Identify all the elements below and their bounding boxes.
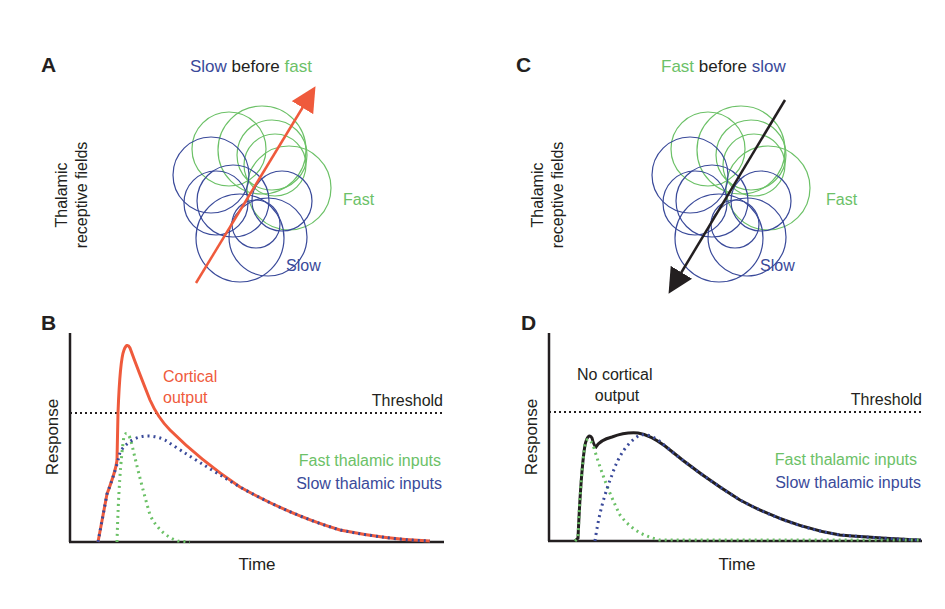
svg-text:Response: Response [522,399,541,476]
panel-a-title: Slow before fast [190,57,312,76]
x-axis-label: Time [718,555,755,574]
legend-fast: Fast thalamic inputs [299,452,441,469]
panel-a: A Slow before fast Thalamic receptive fi… [41,53,375,283]
cortical-output-label: Cortical output [163,368,222,406]
legend-slow: Slow thalamic inputs [296,475,442,492]
slow-label: Slow [286,257,321,274]
y-axis-label: Response [522,399,541,476]
panel-letter-b: B [41,311,56,334]
svg-text:receptive fields: receptive fields [73,142,90,249]
x-axis-label: Time [238,555,275,574]
title-before-word: before [227,57,285,76]
title-before-word: before [694,57,752,76]
panel-letter-c: C [516,53,531,76]
panel-letter-d: D [521,311,536,334]
fast-label: Fast [343,191,375,208]
figure: A Slow before fast Thalamic receptive fi… [0,0,945,609]
title-slow-word: slow [752,57,787,76]
legend-fast: Fast thalamic inputs [775,451,917,468]
fast-label: Fast [826,191,858,208]
threshold-label: Threshold [851,391,922,408]
panel-a-ylabel: Thalamic receptive fields [53,142,90,249]
panel-letter-a: A [41,53,56,76]
slow-label: Slow [760,257,795,274]
y-axis-label: Response [43,399,62,476]
svg-text:Thalamic: Thalamic [529,163,546,228]
svg-text:Response: Response [43,399,62,476]
threshold-label: Threshold [372,392,443,409]
panel-c-title: Fast before slow [661,57,786,76]
panel-b: B Response Time Threshold Cortical outpu… [41,311,444,574]
panel-d: D Response Time Threshold No cortical ou… [521,311,922,574]
title-fast-word: fast [285,57,313,76]
svg-text:Thalamic: Thalamic [53,163,70,228]
svg-text:receptive fields: receptive fields [549,142,566,249]
no-cortical-output-label: No cortical output [577,366,657,404]
panel-c: C Fast before slow Thalamic receptive fi… [516,53,858,283]
stimulus-arrow-up-right-icon [196,97,309,283]
title-slow-word: Slow [190,57,228,76]
legend-slow: Slow thalamic inputs [775,474,921,491]
title-fast-word: Fast [661,57,694,76]
fast-input-curve [117,433,190,542]
panel-c-ylabel: Thalamic receptive fields [529,142,566,249]
